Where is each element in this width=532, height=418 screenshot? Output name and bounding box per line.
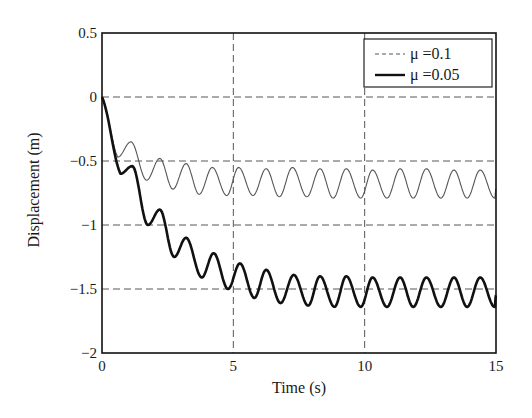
legend-label-mu-0-1: μ =0.1: [410, 45, 452, 63]
y-tick-label: −2: [81, 345, 97, 361]
y-tick-label: −0.5: [70, 153, 97, 169]
y-axis-label: Displacement (m): [25, 132, 43, 247]
series-mu-0-1-line: [102, 97, 496, 198]
legend-label-mu-0-05: μ =0.05: [410, 66, 460, 84]
x-tick-label: 0: [98, 358, 106, 374]
x-tick-label: 5: [230, 358, 238, 374]
y-tick-label: 0.5: [78, 25, 97, 41]
x-tick-labels: 051015: [98, 358, 503, 374]
series-mu-0-05-line: [102, 97, 496, 307]
y-tick-label: −1: [81, 217, 97, 233]
x-axis-label: Time (s): [272, 379, 326, 397]
data-curves: [102, 97, 496, 307]
y-tick-labels: 0.50−0.5−1−1.5−2: [70, 25, 97, 361]
displacement-chart: 0.50−0.5−1−1.5−2 051015 Time (s) Displac…: [0, 0, 532, 418]
y-tick-label: −1.5: [70, 281, 97, 297]
x-tick-label: 10: [357, 358, 372, 374]
x-tick-label: 15: [489, 358, 504, 374]
legend: μ =0.1 μ =0.05: [364, 39, 492, 87]
y-tick-label: 0: [90, 89, 98, 105]
